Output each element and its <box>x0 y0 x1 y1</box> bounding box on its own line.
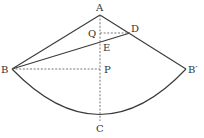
label-A: A <box>95 2 104 13</box>
segment-AB-prime <box>100 15 186 69</box>
label-B-prime: B′ <box>188 64 198 75</box>
segment-BD <box>12 33 130 69</box>
label-C: C <box>96 123 104 134</box>
label-E: E <box>103 42 110 53</box>
segment-AB <box>12 15 100 69</box>
arc-BCB-prime <box>12 69 186 115</box>
label-P: P <box>104 64 111 75</box>
label-D: D <box>131 23 139 34</box>
label-B: B <box>1 64 8 75</box>
label-Q: Q <box>88 28 96 39</box>
geometry-diagram: A D Q E B P B′ C <box>0 0 204 138</box>
